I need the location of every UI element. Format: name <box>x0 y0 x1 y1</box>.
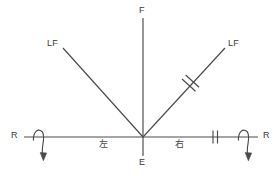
right-lateral-force-line <box>143 48 225 137</box>
label-right-lateral-force-LF: LF <box>228 39 239 48</box>
label-right-reaction-R: R <box>263 131 270 140</box>
label-origin-E: E <box>139 158 145 167</box>
right-diagonal-double-tick-icon <box>182 75 199 91</box>
left-moment-arrow-icon <box>33 130 46 161</box>
label-left-side-cjk: 左 <box>99 140 108 149</box>
label-right-side-cjk: 右 <box>175 140 184 149</box>
force-diagram: F LF LF R R E 左 右 <box>0 0 280 178</box>
right-moment-arrow-icon <box>238 130 251 161</box>
label-left-lateral-force-LF: LF <box>47 39 58 48</box>
diagram-canvas <box>0 0 280 178</box>
label-top-force-F: F <box>139 6 145 15</box>
label-left-reaction-R: R <box>11 131 18 140</box>
left-lateral-force-line <box>63 48 143 137</box>
